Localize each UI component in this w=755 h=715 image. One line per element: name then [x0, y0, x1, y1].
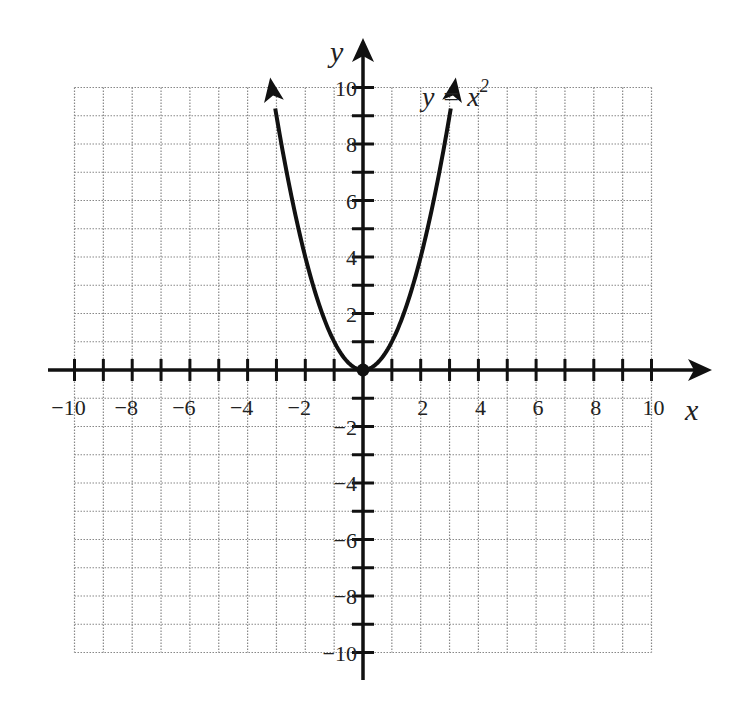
x-tick-label: 6 — [533, 395, 544, 420]
x-tick-label: −10 — [51, 395, 85, 420]
left-arrowhead-icon — [264, 78, 284, 103]
x-tick-label: −2 — [288, 395, 311, 420]
x-axis-label: x — [684, 393, 699, 426]
x-tick-label: −6 — [172, 395, 195, 420]
y-tick-label: 10 — [335, 76, 357, 101]
y-axis-label: y — [327, 35, 344, 68]
y-tick-label: 4 — [346, 245, 357, 270]
equation-exponent: 2 — [480, 76, 489, 96]
y-tick-label: −2 — [334, 415, 357, 440]
y-tick-label: 2 — [346, 302, 357, 327]
x-tick-label: 2 — [417, 395, 428, 420]
y-tick-label: −10 — [323, 641, 357, 666]
x-tick-label: 4 — [475, 395, 486, 420]
x-tick-label: 8 — [590, 395, 601, 420]
y-tick-label: 6 — [346, 189, 357, 214]
x-tick-label: 10 — [643, 395, 665, 420]
x-tick-label: −8 — [114, 395, 137, 420]
y-tick-label: −4 — [334, 471, 357, 496]
y-tick-label: −8 — [334, 584, 357, 609]
y-tick-label: 8 — [346, 132, 357, 157]
y-tick-label: −6 — [334, 528, 357, 553]
vertex-point — [357, 364, 370, 377]
x-tick-label: −4 — [230, 395, 253, 420]
equation-label: y = x2 — [419, 76, 489, 112]
equation-main: y = x — [419, 81, 480, 112]
parabola-chart: −10−8−6−4−2246810108642−2−4−6−8−10 x y y… — [0, 0, 755, 715]
